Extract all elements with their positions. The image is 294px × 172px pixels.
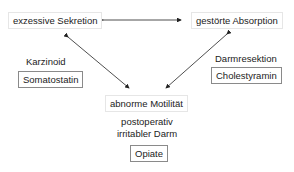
cause-carcinoid: Karzinoid xyxy=(26,56,66,67)
node-impaired-absorption: gestörte Absorption xyxy=(191,12,283,29)
cause-irritable-bowel: irritabler Darm xyxy=(111,128,183,139)
node-excessive-secretion: exzessive Sekretion xyxy=(8,12,102,29)
cause-postoperative: postoperativ xyxy=(116,116,178,127)
treatment-cholestyramine: Cholestyramin xyxy=(211,67,282,84)
cause-bowel-resection: Darmresektion xyxy=(215,53,277,64)
node-abnormal-motility: abnorme Motilität xyxy=(105,95,188,112)
treatment-somatostatin: Somatostatin xyxy=(18,71,83,88)
treatment-opiates: Opiate xyxy=(130,145,168,162)
